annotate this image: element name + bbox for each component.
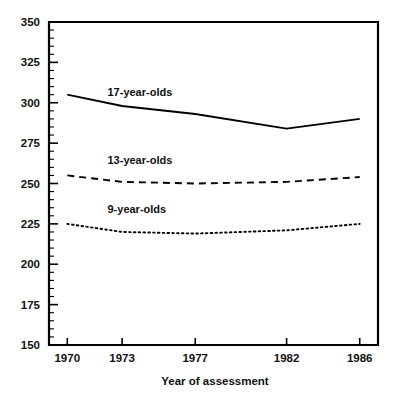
y-axis-tick-label: 300 [21,97,40,109]
x-axis-tick-label: 1973 [109,352,135,364]
series-label-17-year-olds: 17-year-olds [107,86,172,98]
series-label-13-year-olds: 13-year-olds [107,154,172,166]
chart-canvas: 350325300275250225200175150 197019731977… [0,0,401,399]
x-axis-title: Year of assessment [161,375,269,387]
y-axis-tick-labels: 350325300275250225200175150 [21,16,41,351]
x-axis-tick-labels: 19701973197719821986 [54,352,372,364]
series-line-13-year-olds [67,175,359,183]
series-line-9-year-olds [67,224,359,234]
series-label-9-year-olds: 9-year-olds [107,203,166,215]
y-axis-tick-label: 200 [21,258,40,270]
y-axis-tick-label: 350 [21,16,40,28]
y-axis-tick-label: 225 [21,218,41,230]
x-axis-tick-label: 1977 [182,352,208,364]
series-line-17-year-olds [67,95,359,129]
x-axis-tick-label: 1970 [54,352,80,364]
y-axis-tick-label: 150 [21,339,40,351]
y-axis-tick-label: 175 [21,299,41,311]
y-axis-tick-label: 325 [21,56,41,68]
x-axis-tick-label: 1986 [347,352,373,364]
y-axis-tick-label: 275 [21,137,41,149]
y-axis-tick-label: 250 [21,178,40,190]
line-chart-figure: 350325300275250225200175150 197019731977… [0,0,401,399]
x-axis-tick-label: 1982 [274,352,300,364]
